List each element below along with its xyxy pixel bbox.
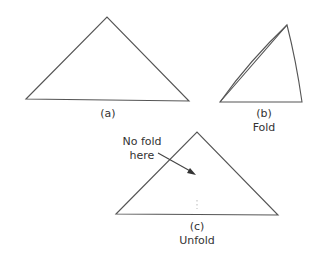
no-fold-annotation: No fold here bbox=[122, 135, 196, 175]
label-c: (c) bbox=[190, 220, 205, 233]
caption-fold: Fold bbox=[253, 121, 276, 134]
triangle-a bbox=[26, 17, 189, 101]
label-a: (a) bbox=[100, 107, 115, 120]
label-b: (b) bbox=[256, 107, 272, 120]
arrow-head-icon bbox=[187, 168, 196, 175]
panel-b: (b) Fold bbox=[220, 25, 302, 134]
caption-unfold: Unfold bbox=[179, 234, 215, 247]
annotation-line2: here bbox=[130, 149, 155, 162]
annotation-line1: No fold bbox=[122, 135, 161, 148]
fold-unfold-diagram: (a) (b) Fold (c) Unfold No fold here bbox=[0, 0, 317, 259]
folded-triangle-outline bbox=[220, 25, 302, 102]
annotation-arrow-shaft bbox=[158, 153, 192, 172]
panel-a: (a) bbox=[26, 17, 189, 120]
